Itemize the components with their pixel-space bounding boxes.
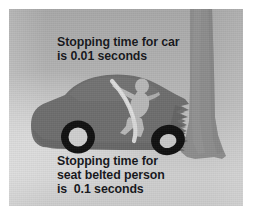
- tree-trunk: [181, 9, 226, 159]
- stopping-time-figure: Stopping time for car is 0.01 seconds St…: [0, 0, 254, 220]
- caption-stopping-time-person: Stopping time for seat belted person is …: [57, 154, 165, 197]
- photo-plate: Stopping time for car is 0.01 seconds St…: [9, 9, 243, 206]
- rear-wheel: [61, 121, 95, 154]
- caption-stopping-time-car: Stopping time for car is 0.01 seconds: [57, 35, 180, 63]
